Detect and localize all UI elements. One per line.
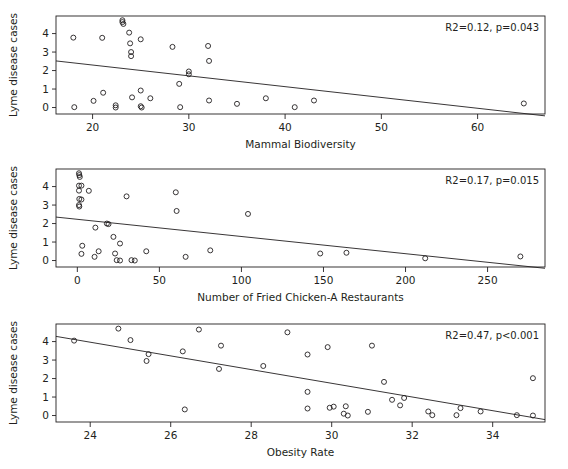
stats-annotation: R2=0.47, p<0.001 (445, 330, 539, 341)
data-point (96, 249, 101, 254)
data-point (124, 194, 129, 199)
data-point (318, 251, 323, 256)
x-tick-label: 32 (405, 429, 418, 441)
data-point (398, 403, 403, 408)
data-point (111, 234, 116, 239)
data-point (76, 188, 81, 193)
scatter-panel-mammal-biodiversity: 012342030405060R2=0.12, p=0.043Mammal Bi… (0, 2, 568, 152)
y-axis-title: Lyme disease cases (7, 13, 19, 117)
x-tick-label: 40 (278, 121, 291, 133)
data-point (219, 343, 224, 348)
data-point (118, 241, 123, 246)
y-tick-label: 0 (42, 409, 49, 421)
x-tick-label: 26 (164, 429, 178, 441)
data-point (139, 105, 144, 110)
data-point (182, 407, 187, 412)
data-point (72, 105, 77, 110)
data-point (101, 90, 106, 95)
y-tick-label: 1 (42, 391, 49, 403)
y-tick-label: 4 (42, 27, 49, 39)
data-point (170, 44, 175, 49)
data-point (478, 409, 483, 414)
data-point (245, 211, 250, 216)
data-point (93, 225, 98, 230)
data-point (285, 330, 290, 335)
stats-annotation: R2=0.17, p=0.015 (445, 175, 539, 186)
data-point (72, 338, 77, 343)
data-point (183, 254, 188, 259)
x-tick-label: 50 (153, 274, 166, 286)
data-point (208, 248, 213, 253)
data-point (292, 105, 297, 110)
data-point (174, 208, 179, 213)
data-point (426, 409, 431, 414)
data-point (144, 358, 149, 363)
y-tick-label: 3 (42, 354, 49, 366)
data-point (369, 343, 374, 348)
data-point (263, 96, 268, 101)
stats-annotation: R2=0.12, p=0.043 (445, 22, 539, 33)
data-point (518, 254, 523, 259)
y-axis-title: Lyme disease cases (7, 166, 19, 270)
data-point (132, 258, 137, 263)
data-point (305, 352, 310, 357)
y-tick-label: 0 (42, 254, 49, 266)
data-point (86, 188, 91, 193)
y-tick-label: 4 (42, 335, 49, 347)
data-point (261, 363, 266, 368)
data-point (382, 379, 387, 384)
x-axis-title: Obesity Rate (267, 446, 335, 458)
y-tick-label: 1 (42, 236, 49, 248)
data-point (173, 190, 178, 195)
data-point (71, 35, 76, 40)
data-point (305, 406, 310, 411)
data-point (365, 409, 370, 414)
x-tick-label: 0 (74, 274, 81, 286)
plot-svg: 01234242628303234R2=0.47, p<0.001Obesity… (0, 310, 568, 460)
data-point (234, 101, 239, 106)
data-point (458, 406, 463, 411)
x-tick-label: 200 (395, 274, 415, 286)
data-point (138, 37, 143, 42)
x-axis-title: Mammal Biodiversity (245, 138, 355, 150)
scatter-panel-obesity-rate: 01234242628303234R2=0.47, p<0.001Obesity… (0, 310, 568, 460)
data-point (311, 98, 316, 103)
x-tick-label: 20 (86, 121, 99, 133)
data-point (148, 96, 153, 101)
x-tick-label: 250 (478, 274, 498, 286)
data-point (423, 256, 428, 261)
plot-svg: 01234050100150200250R2=0.17, p=0.015Numb… (0, 155, 568, 305)
data-point (344, 250, 349, 255)
data-point (180, 349, 185, 354)
data-point (128, 338, 133, 343)
data-point (206, 43, 211, 48)
data-point (430, 413, 435, 418)
x-tick-label: 60 (471, 121, 484, 133)
y-tick-label: 1 (42, 83, 49, 95)
y-tick-label: 3 (42, 46, 49, 58)
data-point (138, 88, 143, 93)
data-point (196, 327, 201, 332)
scatter-panel-fried-chicken-restaurants: 01234050100150200250R2=0.17, p=0.015Numb… (0, 155, 568, 305)
data-point (305, 389, 310, 394)
x-tick-label: 24 (84, 429, 98, 441)
data-point (390, 397, 395, 402)
data-point (130, 95, 135, 100)
data-point (177, 81, 182, 86)
x-tick-label: 34 (486, 429, 500, 441)
x-tick-label: 50 (375, 121, 388, 133)
x-tick-label: 150 (313, 274, 333, 286)
plot-svg: 012342030405060R2=0.12, p=0.043Mammal Bi… (0, 2, 568, 152)
figure-container: 012342030405060R2=0.12, p=0.043Mammal Bi… (0, 0, 568, 469)
x-tick-label: 28 (245, 429, 258, 441)
data-point (530, 376, 535, 381)
y-tick-label: 2 (42, 217, 49, 229)
data-point (127, 30, 132, 35)
data-point (402, 395, 407, 400)
trend-line (56, 336, 545, 419)
data-point (144, 249, 149, 254)
data-point (325, 345, 330, 350)
data-point (217, 366, 222, 371)
y-tick-label: 2 (42, 64, 49, 76)
y-axis-title: Lyme disease cases (7, 321, 19, 425)
